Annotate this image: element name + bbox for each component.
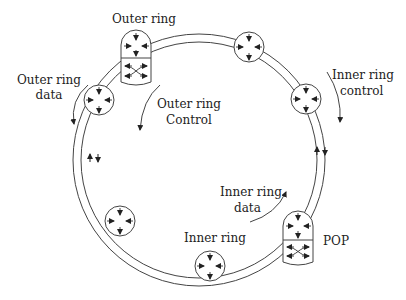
ring-arrow-right — [317, 147, 325, 155]
node-top[interactable] — [234, 32, 264, 62]
outer-pop-node[interactable] — [121, 30, 151, 85]
label-inner-ring-control-2: control — [340, 84, 383, 98]
node-bottom[interactable] — [195, 251, 225, 281]
label-outer-ring-control-1: Outer ring — [157, 97, 221, 111]
label-inner-ring-bottom: Inner ring — [184, 231, 246, 245]
inner-pop-node[interactable] — [283, 211, 313, 265]
label-pop: POP — [323, 234, 349, 248]
label-outer-ring-top: Outer ring — [112, 12, 176, 26]
label-outer-ring-data-2: data — [28, 88, 70, 102]
label-inner-ring-data-1: Inner ring — [220, 185, 282, 199]
label-inner-ring-data-2: data — [234, 201, 261, 215]
node-left[interactable] — [84, 85, 114, 115]
ring-arrow-left-up — [90, 154, 98, 162]
node-lower-left[interactable] — [105, 206, 135, 236]
label-outer-ring-control-2: Control — [166, 113, 212, 127]
label-inner-ring-control-1: Inner ring — [332, 68, 394, 82]
label-outer-ring-data-1: Outer ring — [17, 73, 81, 87]
ring-diagram — [0, 0, 406, 300]
node-upper-right[interactable] — [291, 84, 321, 114]
